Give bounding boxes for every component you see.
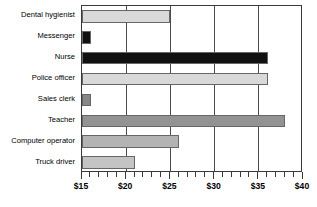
minor-tick [275, 172, 276, 177]
minor-tick [222, 172, 223, 177]
minor-tick [134, 172, 135, 177]
minor-tick [142, 172, 143, 177]
major-tick [257, 172, 258, 179]
category-label: Computer operator [0, 136, 75, 145]
minor-tick [231, 172, 232, 177]
bar [82, 94, 91, 107]
category-label: Nurse [0, 52, 75, 61]
minor-tick [293, 172, 294, 177]
category-label: Sales clerk [0, 94, 75, 103]
x-tick-label: $20 [118, 181, 132, 191]
minor-tick [195, 172, 196, 177]
gridline-30 [214, 6, 215, 171]
bar [82, 73, 268, 86]
bar [82, 31, 91, 44]
x-tick-label: $15 [74, 181, 88, 191]
minor-tick [151, 172, 152, 177]
minor-tick [116, 172, 117, 177]
x-tick-label: $30 [206, 181, 220, 191]
major-tick [81, 172, 82, 179]
minor-tick [187, 172, 188, 177]
minor-tick [89, 172, 90, 177]
minor-tick [240, 172, 241, 177]
minor-tick [204, 172, 205, 177]
minor-tick [248, 172, 249, 177]
x-tick-label: $25 [162, 181, 176, 191]
bar [82, 156, 135, 169]
minor-tick [98, 172, 99, 177]
x-axis-tick-marks [81, 172, 302, 179]
major-tick [125, 172, 126, 179]
category-label: Dental hygienist [0, 10, 75, 19]
x-tick-label: $35 [251, 181, 265, 191]
minor-tick [107, 172, 108, 177]
bar [82, 135, 179, 148]
major-tick [302, 172, 303, 179]
plot-area [81, 5, 302, 172]
bar [82, 115, 285, 128]
bar [82, 52, 268, 65]
gridline-35 [258, 6, 259, 171]
minor-tick [178, 172, 179, 177]
major-tick [213, 172, 214, 179]
major-tick [169, 172, 170, 179]
category-label: Truck driver [0, 157, 75, 166]
category-label: Messenger [0, 31, 75, 40]
x-axis-tick-labels: $15$20$25$30$35$40 [0, 181, 317, 195]
minor-tick [160, 172, 161, 177]
category-axis-labels: Dental hygienistMessengerNursePolice off… [0, 5, 78, 172]
minor-tick [266, 172, 267, 177]
bar-chart: Dental hygienistMessengerNursePolice off… [0, 0, 317, 207]
category-label: Teacher [0, 115, 75, 124]
x-tick-label: $40 [295, 181, 309, 191]
minor-tick [284, 172, 285, 177]
category-label: Police officer [0, 73, 75, 82]
bar [82, 10, 170, 23]
